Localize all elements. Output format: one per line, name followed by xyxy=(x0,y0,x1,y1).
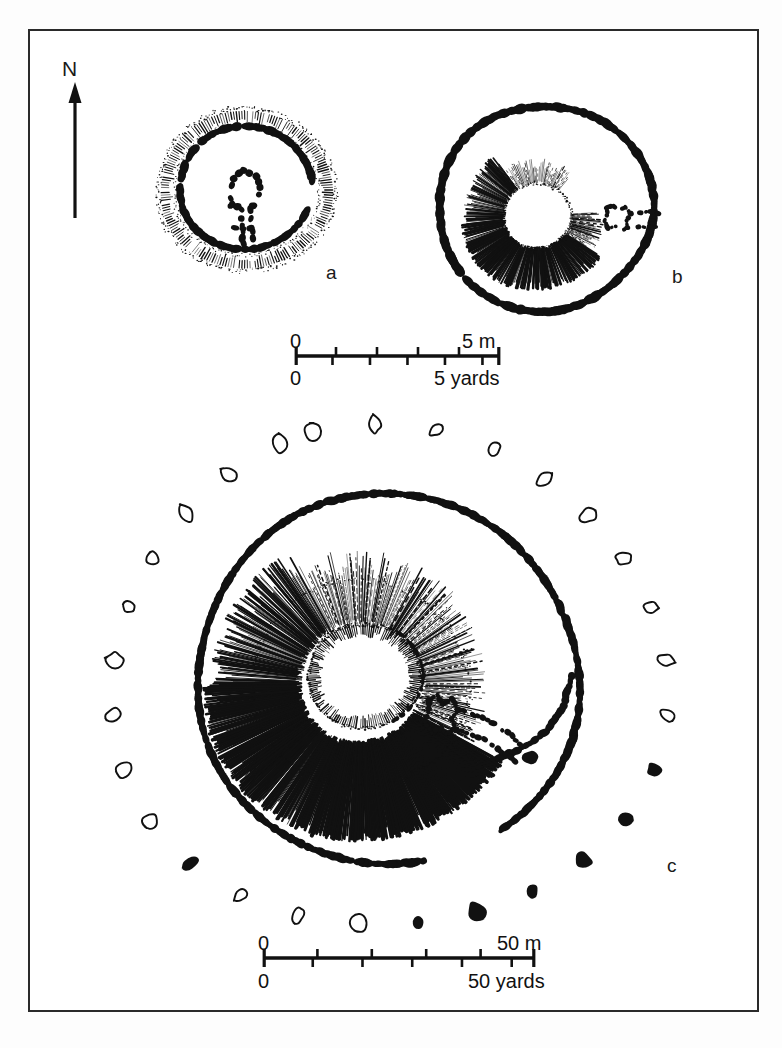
scale-top-imperial-start: 0 xyxy=(290,367,301,390)
scale-top-metric-end: 5 m xyxy=(462,330,495,353)
north-label: N xyxy=(62,57,78,81)
panel-b-label: b xyxy=(672,266,683,288)
figure-page: N a b c 0 5 m 0 5 yards 0 50 m 0 50 yard… xyxy=(0,0,782,1048)
scale-top-metric-start: 0 xyxy=(290,330,301,353)
scale-bottom-imperial-end: 50 yards xyxy=(468,970,545,993)
scale-bottom-metric-end: 50 m xyxy=(497,932,541,955)
panel-c-label: c xyxy=(667,855,677,877)
plate-frame-border xyxy=(28,29,759,1012)
scale-bottom-imperial-start: 0 xyxy=(258,970,269,993)
scale-bottom-metric-start: 0 xyxy=(258,932,269,955)
scale-top-imperial-end: 5 yards xyxy=(434,367,500,390)
panel-a-label: a xyxy=(326,262,337,284)
